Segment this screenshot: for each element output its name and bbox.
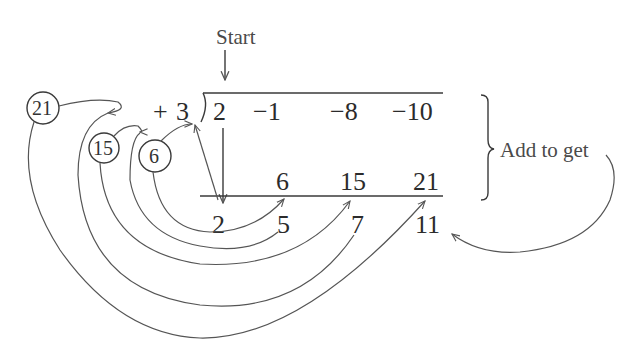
- result-1: 5: [277, 210, 290, 239]
- divisor-value: 3: [176, 97, 189, 126]
- start-label: Start: [216, 25, 256, 49]
- product-2: 21: [413, 167, 439, 196]
- result-2: 7: [351, 210, 364, 239]
- add-to-get-label: Add to get: [500, 138, 589, 162]
- dividend-coef-3: −10: [392, 97, 433, 126]
- synthetic-division-diagram: Start + 3 2 −1 −8 −10 6 15 21 2 5 7 11 A…: [0, 0, 643, 351]
- brace-icon: [481, 95, 494, 200]
- svg-text:6: 6: [149, 145, 159, 167]
- circle-21: 21: [27, 92, 59, 124]
- circle-6: 6: [139, 140, 171, 172]
- circle-15: 15: [89, 133, 119, 163]
- dividend-coef-1: −1: [253, 97, 281, 126]
- arrow-6-to-divisor-icon: [161, 124, 192, 141]
- product-1: 15: [340, 167, 366, 196]
- dividend-coef-2: −8: [330, 97, 358, 126]
- product-0: 6: [276, 167, 289, 196]
- result-0: 2: [212, 210, 225, 239]
- division-paren: [201, 93, 206, 122]
- dividend-coef-0: 2: [213, 97, 226, 126]
- svg-text:21: 21: [32, 97, 52, 119]
- svg-text:15: 15: [93, 137, 113, 159]
- arrow-15-to-divisor-icon: [114, 126, 142, 136]
- divisor-sign: +: [153, 97, 168, 126]
- result-3: 11: [415, 210, 440, 239]
- arc-15-to-product-15-icon: [100, 163, 350, 264]
- arrow-21-to-divisor-icon: [59, 100, 121, 113]
- add-to-get-arrow-icon: [452, 155, 614, 252]
- arrow-2-to-divisor-icon: [195, 125, 218, 200]
